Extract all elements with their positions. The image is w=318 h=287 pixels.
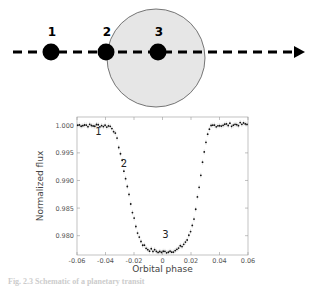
y-tick-label: 0.995 [55, 149, 74, 157]
annotation-label: 1 [95, 126, 101, 137]
x-tick-label: -0.04 [97, 257, 114, 265]
y-tick-label: 0.990 [55, 177, 74, 185]
x-tick-label: 0.04 [212, 257, 226, 265]
planet-label: 1 [48, 25, 56, 39]
planet-1 [43, 44, 60, 61]
arrow-head-icon [294, 46, 305, 58]
y-axis-label: Normalized flux [35, 150, 45, 221]
x-tick-label: -0.06 [69, 257, 86, 265]
figure-caption: Fig. 2.3 Schematic of a planetary transi… [8, 277, 144, 286]
annotation-label: 3 [162, 229, 168, 240]
x-axis-label: Orbital phase [132, 264, 193, 274]
y-tick-label: 1.000 [55, 122, 74, 130]
x-tick-label: 0.06 [241, 257, 255, 265]
y-tick-label: 0.980 [55, 232, 74, 240]
y-tick-label: 0.985 [55, 205, 74, 213]
light-curve-chart: 1.0000.9950.9900.9850.980 -0.06-0.04-0.0… [0, 112, 318, 277]
annotation-label: 2 [121, 158, 127, 169]
planet-3 [150, 44, 167, 61]
transit-diagram: 123 [0, 0, 318, 115]
planet-label: 2 [103, 25, 111, 39]
planet-label: 3 [155, 25, 163, 39]
planet-2 [98, 44, 115, 61]
